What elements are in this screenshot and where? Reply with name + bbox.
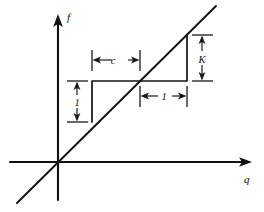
dimension-K-label: K [197, 54, 206, 65]
dimension-c: c [92, 50, 140, 71]
dimension-rise-left-label: 1 [74, 97, 79, 108]
figure-container: f q c 1 [0, 0, 264, 212]
axes-group: f q [10, 11, 252, 200]
line-graph-diagram: f q c 1 [0, 0, 264, 212]
vertical-axis-label: f [67, 11, 72, 23]
dimension-K: K [192, 35, 213, 81]
dimension-run-lower-label: 1 [161, 91, 166, 102]
dimension-run-lower: 1 [140, 86, 187, 107]
dimension-c-label: c [111, 55, 116, 66]
dimension-rise-left: 1 [67, 81, 88, 122]
horizontal-axis-label: q [244, 173, 250, 185]
